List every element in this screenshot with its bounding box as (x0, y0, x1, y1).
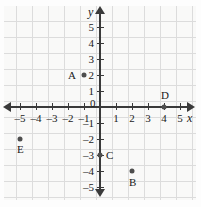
x-axis-tick (52, 103, 53, 110)
x-axis-tick (180, 103, 181, 110)
x-axis-tick (36, 103, 37, 110)
plotted-point-a (82, 73, 87, 78)
y-axis-tick-label: 3 (76, 54, 94, 65)
y-axis-tick-label: –3 (76, 150, 94, 161)
y-axis-tick (97, 123, 104, 124)
point-label-d: D (161, 90, 169, 101)
x-axis-tick (148, 103, 149, 110)
y-axis-line (99, 12, 101, 192)
y-axis-tick-label: –4 (76, 166, 94, 177)
y-axis-tick-label: 1 (76, 86, 94, 97)
point-label-e: E (17, 144, 24, 155)
y-axis-tick-label: –2 (76, 134, 94, 145)
plotted-point-b (130, 169, 135, 174)
y-axis-tick-label: –5 (76, 182, 94, 193)
y-axis-tick-label: –1 (76, 118, 94, 129)
origin-label: 0 (90, 98, 96, 109)
point-label-b: B (129, 177, 136, 188)
x-axis-tick (20, 103, 21, 110)
y-axis-tick (97, 27, 104, 28)
x-axis-tick (84, 103, 85, 110)
point-label-c: C (106, 150, 113, 161)
y-axis-arrow-down-icon (95, 189, 105, 197)
y-axis-tick (97, 139, 104, 140)
x-axis-tick-label: 5 (171, 113, 189, 124)
coordinate-plane-figure: x y –5–4–3–2–11234554321–1–2–3–4–5 0 ABC… (0, 0, 201, 207)
x-axis-tick (68, 103, 69, 110)
y-axis-tick-label: 4 (76, 38, 94, 49)
plotted-point-e (18, 137, 23, 142)
plotted-point-d (162, 105, 167, 110)
y-axis-tick-label: 5 (76, 22, 94, 33)
x-axis-tick (132, 103, 133, 110)
x-axis-arrow-left-icon (3, 102, 11, 112)
y-axis-tick (97, 43, 104, 44)
y-axis-tick (97, 91, 104, 92)
plotted-point-c (98, 153, 103, 158)
y-axis-arrow-up-icon (95, 6, 105, 14)
x-axis-tick (116, 103, 117, 110)
y-axis-label: y (88, 6, 93, 18)
y-axis-tick (97, 171, 104, 172)
y-axis-tick (97, 75, 104, 76)
y-axis-tick (97, 59, 104, 60)
y-axis-tick (97, 187, 104, 188)
point-label-a: A (68, 70, 76, 81)
